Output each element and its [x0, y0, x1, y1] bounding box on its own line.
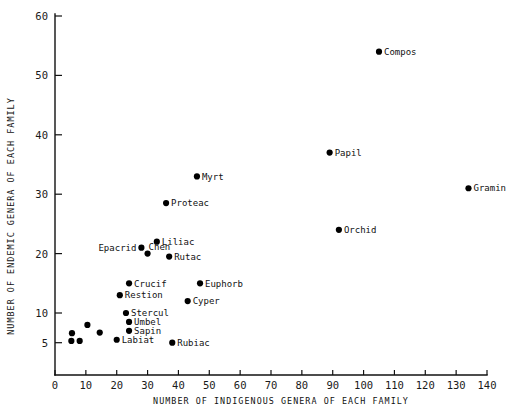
- data-point-stercul: [123, 310, 129, 316]
- data-label-rutac: Rutac: [174, 252, 201, 262]
- data-point-proteac: [163, 200, 169, 206]
- data-point-epacrid: [138, 245, 144, 251]
- data-point-myrt: [194, 173, 200, 179]
- y-axis-ticks: [55, 16, 62, 343]
- y-tick-label-5: 5: [42, 337, 48, 349]
- data-label-proteac: Proteac: [171, 198, 209, 208]
- x-axis-title: NUMBER OF INDIGENOUS GENERA OF EACH FAMI…: [153, 396, 409, 406]
- y-tick-label-10: 10: [35, 307, 48, 319]
- x-tick-label-80: 80: [296, 379, 309, 391]
- data-point-unlabeled-21: [69, 330, 75, 336]
- data-point-unlabeled-22: [68, 338, 74, 344]
- data-point-layer: [68, 49, 471, 346]
- data-label-layer: GraminComposPapilOrchidMyrtProteacLiliac…: [98, 47, 506, 348]
- y-tick-label-50: 50: [35, 69, 48, 81]
- data-point-umbel: [126, 319, 132, 325]
- x-axis-tick-labels: 0102030405060708090100110120130140: [52, 379, 497, 391]
- data-label-gramin: Gramin: [473, 183, 506, 193]
- data-point-unlabeled-20: [97, 330, 103, 336]
- data-label-cyper: Cyper: [193, 296, 221, 306]
- x-tick-label-70: 70: [265, 379, 278, 391]
- data-point-restion: [117, 292, 123, 298]
- data-point-crucif: [126, 280, 132, 286]
- data-label-labiat: Labiat: [122, 335, 155, 345]
- x-tick-label-0: 0: [52, 379, 58, 391]
- data-label-myrt: Myrt: [202, 172, 224, 182]
- data-point-compos: [376, 49, 382, 55]
- x-tick-label-140: 140: [478, 379, 497, 391]
- chart-canvas: 5102030405060 01020304050607080901001101…: [0, 0, 508, 416]
- data-point-orchid: [336, 227, 342, 233]
- y-tick-label-30: 30: [35, 188, 48, 200]
- y-tick-label-40: 40: [35, 129, 48, 141]
- data-label-crucif: Crucif: [134, 279, 167, 289]
- y-tick-label-60: 60: [35, 10, 48, 22]
- x-tick-label-90: 90: [326, 379, 339, 391]
- data-label-papil: Papil: [335, 148, 362, 158]
- data-label-euphorb: Euphorb: [205, 279, 243, 289]
- y-tick-label-20: 20: [35, 248, 48, 260]
- data-label-restion: Restion: [125, 290, 163, 300]
- data-point-papil: [327, 150, 333, 156]
- data-point-unlabeled-23: [77, 338, 83, 344]
- data-label-rubiac: Rubiac: [177, 338, 210, 348]
- x-tick-label-50: 50: [203, 379, 216, 391]
- data-label-epacrid: Epacrid: [98, 243, 136, 253]
- data-point-cyper: [185, 298, 191, 304]
- x-tick-label-60: 60: [234, 379, 247, 391]
- x-axis: 0102030405060708090100110120130140: [52, 370, 497, 391]
- data-point-rubiac: [169, 340, 175, 346]
- y-axis-title: NUMBER OF ENDEMIC GENERA OF EACH FAMILY: [6, 97, 16, 335]
- data-point-sapin: [126, 328, 132, 334]
- x-tick-label-120: 120: [416, 379, 435, 391]
- x-tick-label-30: 30: [141, 379, 154, 391]
- x-tick-label-110: 110: [385, 379, 404, 391]
- x-tick-label-20: 20: [110, 379, 123, 391]
- x-tick-label-40: 40: [172, 379, 185, 391]
- data-label-chen: Chen: [149, 242, 171, 252]
- y-axis: 5102030405060: [35, 10, 62, 375]
- data-point-rutac: [166, 253, 172, 259]
- x-tick-label-100: 100: [354, 379, 373, 391]
- data-point-labiat: [114, 337, 120, 343]
- x-tick-label-10: 10: [80, 379, 93, 391]
- data-label-compos: Compos: [384, 47, 417, 57]
- data-label-orchid: Orchid: [344, 225, 377, 235]
- x-axis-ticks: [55, 370, 487, 375]
- data-point-gramin: [465, 185, 471, 191]
- x-tick-label-130: 130: [447, 379, 466, 391]
- data-point-unlabeled-19: [84, 322, 90, 328]
- scatter-plot-figure: 5102030405060 01020304050607080901001101…: [0, 0, 508, 416]
- data-point-euphorb: [197, 280, 203, 286]
- y-axis-tick-labels: 5102030405060: [35, 10, 48, 349]
